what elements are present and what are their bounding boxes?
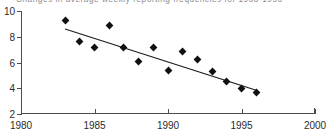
trendline-layer (21, 11, 315, 114)
y-tick-label-4: 4 (9, 83, 15, 94)
diamond-marker-icon (134, 57, 143, 66)
diamond-marker-icon (178, 47, 187, 56)
x-tick-2000 (315, 109, 316, 114)
x-tick-label-1995: 1995 (230, 120, 252, 131)
y-tick-label-2: 2 (9, 109, 15, 120)
diamond-marker-icon (164, 66, 173, 75)
diamond-marker-icon (75, 37, 84, 46)
x-tick-label-1985: 1985 (83, 120, 105, 131)
diamond-marker-icon (149, 43, 158, 52)
diamond-marker-icon (61, 16, 70, 25)
x-tick-label-2000: 2000 (304, 120, 326, 131)
diamond-marker-icon (252, 88, 261, 97)
diamond-marker-icon (237, 84, 246, 93)
y-tick-label-6: 6 (9, 57, 15, 68)
diamond-marker-icon (90, 43, 99, 52)
x-tick-label-1990: 1990 (157, 120, 179, 131)
y-tick-label-10: 10 (4, 6, 15, 17)
chart-title: Changes in average weekly reporting freq… (16, 0, 326, 5)
diamond-marker-icon (193, 55, 202, 64)
plot-area: 246810 19801985199019952000 (21, 11, 315, 114)
diamond-marker-icon (222, 77, 231, 86)
diamond-marker-icon (119, 43, 128, 52)
y-tick-label-8: 8 (9, 31, 15, 42)
chart-figure: Changes in average weekly reporting freq… (0, 0, 326, 137)
y-tick-2 (17, 114, 22, 115)
x-tick-label-1980: 1980 (10, 120, 32, 131)
diamond-marker-icon (105, 21, 114, 30)
diamond-marker-icon (208, 67, 217, 76)
